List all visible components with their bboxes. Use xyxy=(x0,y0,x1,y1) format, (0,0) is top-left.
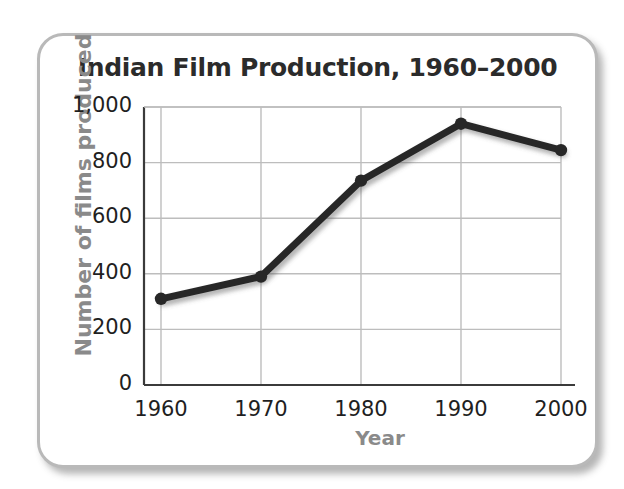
x-tick-label: 1970 xyxy=(216,397,306,421)
chart-card-frame: Indian Film Production, 1960–2000 Number… xyxy=(37,33,598,468)
y-tick-label: 800 xyxy=(52,149,132,173)
y-tick-label: 1,000 xyxy=(52,93,132,117)
data-point xyxy=(255,270,267,282)
x-tick-label: 1960 xyxy=(116,397,206,421)
series-shadow xyxy=(164,127,564,302)
data-point xyxy=(355,174,367,186)
x-tick-label: 1990 xyxy=(416,397,506,421)
gridlines xyxy=(144,107,561,385)
axis-lines xyxy=(144,107,575,385)
chart-page: Indian Film Production, 1960–2000 Number… xyxy=(0,0,624,489)
data-point xyxy=(155,293,167,305)
data-point xyxy=(455,117,467,129)
y-tick-label: 0 xyxy=(52,371,132,395)
y-tick-label: 400 xyxy=(52,260,132,284)
y-tick-label: 200 xyxy=(52,315,132,339)
x-tick-label: 2000 xyxy=(516,397,606,421)
plot-area: 02004006008001,000 19601970198019902000 xyxy=(40,36,595,465)
data-point xyxy=(555,144,567,156)
x-tick-label: 1980 xyxy=(316,397,406,421)
y-tick-label: 600 xyxy=(52,204,132,228)
